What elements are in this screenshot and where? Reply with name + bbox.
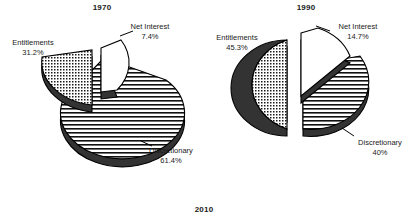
slice-label-text: Discretionary: [149, 146, 193, 155]
slice-label-text: Net Interest: [131, 22, 170, 31]
slice-label-entitlements-1990: Entitlements 45.3%: [206, 33, 268, 52]
slice-label-entitlements-1970: Entitlements 31.2%: [2, 38, 64, 57]
slice-label-percent: 31.2%: [2, 48, 64, 58]
slice-label-percent: 40%: [352, 148, 408, 158]
slice-label-discretionary-1990: Discretionary 40%: [352, 138, 408, 157]
slice-label-net-interest-1990: Net Interest 14.7%: [330, 22, 386, 41]
pie-chart-1990: 1990 Entitlements: [204, 0, 408, 200]
slice-label-text: Net Interest: [339, 22, 378, 31]
slice-label-text: Discretionary: [358, 138, 402, 147]
slice-label-text: Entitlements: [216, 33, 257, 42]
slice-label-net-interest-1970: Net Interest 7.4%: [122, 22, 178, 41]
slice-label-percent: 61.4%: [142, 156, 200, 166]
slice-label-percent: 14.7%: [330, 32, 386, 42]
slice-entitlements-1990: [231, 40, 287, 136]
slice-label-percent: 45.3%: [206, 43, 268, 53]
slice-entitlements-1970: [42, 50, 92, 112]
pie-chart-1970: 1970: [0, 0, 204, 200]
chart-title-2010: 2010: [0, 205, 408, 214]
leader-line-discretionary-1990: [342, 128, 354, 136]
slice-label-discretionary-1970: Discretionary 61.4%: [142, 146, 200, 165]
slice-label-text: Entitlements: [12, 38, 53, 47]
slice-label-percent: 7.4%: [122, 32, 178, 42]
